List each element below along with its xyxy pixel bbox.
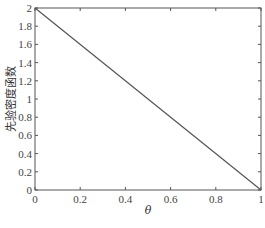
y-tick-label: 1.8 <box>18 20 32 32</box>
x-axis-ticks: 00.20.40.60.81 <box>32 8 264 205</box>
x-axis-label: θ <box>145 204 152 217</box>
x-tick-label: 1 <box>258 193 264 205</box>
x-tick-label: 0 <box>32 193 38 205</box>
y-tick-label: 0.6 <box>18 129 32 141</box>
density-line <box>35 8 261 190</box>
y-tick-label: 1.2 <box>18 75 32 87</box>
y-axis-ticks: 00.20.40.60.811.21.41.61.82 <box>18 2 261 196</box>
x-tick-label: 0.4 <box>119 193 133 205</box>
y-tick-label: 0.2 <box>18 166 32 178</box>
y-tick-label: 0.8 <box>18 111 32 123</box>
x-tick-label: 0.6 <box>164 193 178 205</box>
y-tick-label: 1 <box>27 93 33 105</box>
y-axis-label: 先验密度函数 <box>4 66 18 132</box>
y-tick-label: 1.4 <box>18 57 32 69</box>
y-tick-label: 1.6 <box>18 38 32 50</box>
y-tick-label: 2 <box>27 2 33 14</box>
prior-density-chart: 00.20.40.60.811.21.41.61.82 00.20.40.60.… <box>0 0 265 228</box>
x-tick-label: 0.2 <box>73 193 87 205</box>
data-series <box>35 8 261 190</box>
x-tick-label: 0.8 <box>209 193 223 205</box>
y-tick-label: 0.4 <box>18 148 32 160</box>
